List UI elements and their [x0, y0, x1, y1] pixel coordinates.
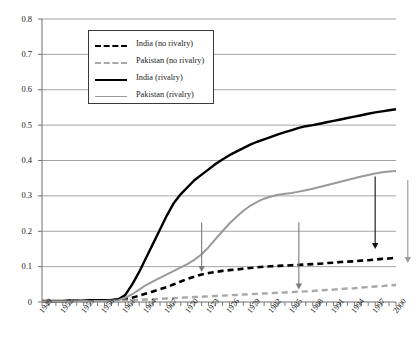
legend-item: Pakistan (rivalry) [95, 87, 207, 104]
y-tick-label: 0.6 [6, 85, 32, 94]
legend-item: India (no rivalry) [95, 36, 207, 53]
legend: India (no rivalry) Pakistan (no rivalry)… [88, 30, 214, 104]
y-tick-label: 0.8 [6, 15, 32, 24]
y-tick-label: 0.1 [6, 262, 32, 271]
legend-item: Pakistan (no rivalry) [95, 53, 207, 70]
legend-label-india-no-rivalry: India (no rivalry) [136, 40, 193, 48]
legend-item: India (rivalry) [95, 70, 207, 87]
y-tick-label: 0.2 [6, 227, 32, 236]
y-tick-label: 0.5 [6, 121, 32, 130]
legend-label-india-rivalry: India (rivalry) [136, 74, 183, 82]
line-chart: 00.10.20.30.40.50.60.70.8 19491952195519… [0, 0, 416, 345]
arrow-1997-black [372, 176, 378, 249]
series-line-india-no-rivalry [42, 258, 396, 302]
series-line-pakistan-rivalry [42, 171, 396, 301]
legend-label-pakistan-rivalry: Pakistan (rivalry) [136, 91, 194, 99]
y-tick-label: 0.7 [6, 50, 32, 59]
y-tick-label: 0.3 [6, 191, 32, 200]
legend-label-pakistan-no-rivalry: Pakistan (no rivalry) [136, 57, 204, 65]
arrow-1972-gray [198, 222, 204, 272]
arrow-right-edge-gray [405, 180, 411, 263]
legend-swatch-pakistan-no-rivalry [95, 57, 127, 67]
y-tick-label: 0.4 [6, 156, 32, 165]
legend-swatch-pakistan-rivalry [95, 91, 127, 101]
arrow-1986-gray [296, 222, 302, 289]
legend-swatch-india-no-rivalry [95, 40, 127, 50]
y-tick-label: 0 [6, 298, 32, 307]
legend-swatch-india-rivalry [95, 74, 127, 84]
